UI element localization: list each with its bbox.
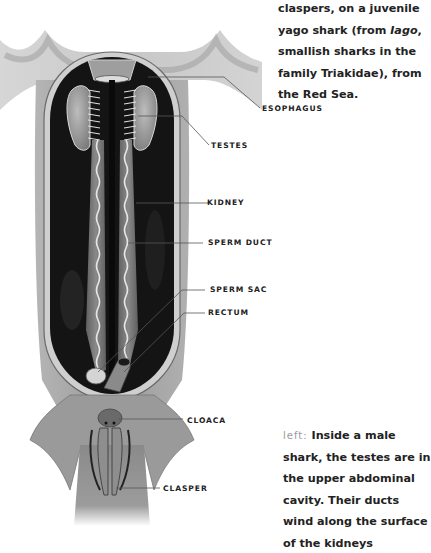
label-sperm-duct: SPERM DUCT [208,238,273,248]
label-clasper: CLASPER [163,484,208,494]
caption-bottom-line-2: shark, the testes are in [283,447,423,469]
caption-bottom-line-6: of the kidneys [283,533,423,553]
label-testes: TESTES [211,141,248,151]
caption-direction: left: [283,430,308,441]
caption-bottom-line-1: left: Inside a male [283,425,423,447]
caption-top-line-3: smallish sharks in the [278,41,418,63]
caption-bottom-line-4: cavity. Their ducts [283,490,423,512]
sperm-sac-shape [86,368,106,384]
caption-bottom-line-5: wind along the surface [283,511,423,533]
caption-bottom-line-3: the upper abdominal [283,468,423,490]
caption-top-line-4: family Triakidae), from [278,63,418,85]
cloaca-shape [98,409,122,427]
label-esophagus: ESOPHAGUS [262,104,323,114]
caption-top-line-5: the Red Sea. [278,84,418,106]
caption-bottom: left: Inside a male shark, the testes ar… [283,425,423,553]
label-rectum: RECTUM [208,308,249,318]
caption-italic-word: Iago [390,24,417,37]
caption-top-line-1: claspers, on a juvenile [278,0,418,20]
caption-top: claspers, on a juvenile yago shark (from… [278,0,418,106]
caption-top-line-2: yago shark (from Iago, [278,20,418,42]
label-cloaca: CLOACA [187,416,226,426]
label-kidney: KIDNEY [207,198,244,208]
label-sperm-sac: SPERM SAC [210,285,267,295]
